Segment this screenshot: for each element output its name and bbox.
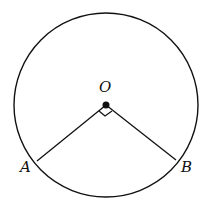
- center-point: [103, 102, 110, 109]
- radius-oa: [37, 105, 106, 161]
- radius-ob: [106, 105, 176, 160]
- label-a: A: [18, 158, 31, 176]
- label-o: O: [99, 78, 111, 96]
- circle-diagram: O A B: [0, 0, 208, 202]
- label-b: B: [180, 158, 192, 176]
- right-angle-marker: [99, 111, 112, 116]
